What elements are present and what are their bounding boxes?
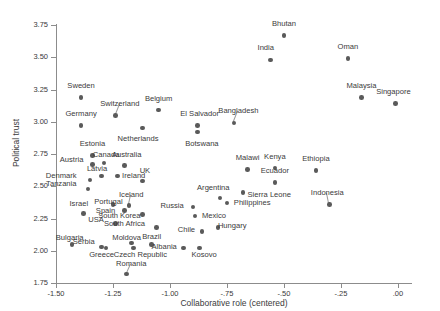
x-tick-label: -.50 — [262, 289, 306, 298]
y-axis-title: Political trust — [11, 83, 21, 203]
data-point-label: Greece — [89, 251, 114, 259]
data-point-label: Bhutan — [272, 20, 296, 28]
data-point[interactable] — [191, 205, 196, 210]
data-point[interactable] — [282, 33, 287, 38]
data-point-label: Portugal — [94, 198, 122, 206]
data-point-label: India — [258, 44, 274, 52]
data-point[interactable] — [195, 130, 200, 135]
data-point[interactable] — [156, 108, 161, 113]
data-point-label: Israel — [70, 200, 89, 208]
data-point[interactable] — [218, 196, 223, 201]
x-tick-label: -.75 — [205, 289, 249, 298]
data-point-label: Romania — [116, 260, 146, 268]
data-point[interactable] — [268, 58, 273, 63]
data-point[interactable] — [140, 212, 145, 217]
data-point[interactable] — [346, 56, 351, 61]
x-tick-label: -1.25 — [91, 289, 135, 298]
data-point[interactable] — [140, 179, 145, 184]
x-tick-mark — [284, 283, 285, 288]
data-point-label: El Salvador — [180, 110, 219, 118]
y-tick-label: 2.00 — [14, 247, 48, 255]
x-tick-mark — [398, 283, 399, 288]
data-point-label: Chile — [178, 226, 195, 234]
data-point-label: Germany — [65, 110, 96, 118]
data-point[interactable] — [81, 211, 86, 216]
data-point[interactable] — [327, 202, 332, 207]
data-point[interactable] — [127, 203, 132, 208]
data-point-label: Singapore — [376, 88, 411, 96]
x-axis-line — [56, 283, 412, 284]
data-point[interactable] — [79, 95, 84, 100]
data-point-label: Argentina — [197, 184, 230, 192]
x-tick-label: .00 — [376, 289, 420, 298]
data-point[interactable] — [359, 95, 364, 100]
data-point[interactable] — [393, 101, 398, 106]
data-point[interactable] — [232, 121, 237, 126]
data-point-label: Ethiopia — [302, 155, 329, 163]
data-point-label: Mexico — [202, 212, 226, 220]
data-point-label: Sweden — [67, 82, 94, 90]
data-point[interactable] — [225, 201, 230, 206]
data-point-label: USA — [88, 216, 104, 224]
data-point-label: Kenya — [264, 153, 286, 161]
data-point-label: Indonesia — [311, 189, 344, 197]
data-point-label: Netherlands — [118, 135, 159, 143]
data-point-label: Iceland — [119, 191, 144, 199]
data-point[interactable] — [314, 168, 319, 173]
data-point[interactable] — [122, 163, 127, 168]
data-point-label: Czech Republic — [114, 251, 167, 259]
data-point-label: Moldova — [112, 234, 141, 242]
data-point[interactable] — [113, 113, 118, 118]
data-point-label: Serbia — [73, 238, 95, 246]
y-tick-mark — [51, 90, 56, 91]
data-point-label: Belgium — [145, 95, 172, 103]
data-point-label: UK — [140, 167, 151, 175]
y-axis-line — [56, 24, 57, 284]
data-point[interactable] — [273, 180, 278, 185]
data-point[interactable] — [154, 225, 159, 230]
data-point[interactable] — [140, 126, 145, 131]
data-point[interactable] — [200, 229, 205, 234]
data-point[interactable] — [193, 214, 198, 219]
data-point-label: Bangladesh — [218, 107, 258, 115]
x-tick-mark — [113, 283, 114, 288]
data-point-label: Switzerland — [100, 100, 139, 108]
data-point[interactable] — [99, 174, 104, 179]
data-point[interactable] — [88, 178, 93, 183]
y-tick-mark — [51, 25, 56, 26]
data-point-label: Hungary — [218, 222, 247, 230]
data-point[interactable] — [124, 272, 129, 277]
data-point[interactable] — [245, 167, 250, 172]
data-point[interactable] — [195, 123, 200, 128]
data-point-label: Ecuador — [261, 167, 289, 175]
y-tick-label: 2.25 — [14, 215, 48, 223]
x-tick-mark — [227, 283, 228, 288]
x-tick-mark — [170, 283, 171, 288]
x-tick-label: -.25 — [319, 289, 363, 298]
data-point-label: Malaysia — [347, 82, 377, 90]
y-tick-mark — [51, 251, 56, 252]
y-tick-label: 3.75 — [14, 21, 48, 29]
y-tick-label: 1.75 — [14, 279, 48, 287]
data-point-label: Oman — [337, 43, 358, 51]
data-point-label: Malawi — [236, 154, 260, 162]
data-point[interactable] — [241, 190, 246, 195]
data-point[interactable] — [181, 246, 186, 251]
data-point-label: Tanzania — [46, 180, 76, 188]
scatter-plot: 1.752.002.252.502.753.003.253.503.75 -1.… — [0, 0, 440, 311]
data-point[interactable] — [86, 187, 91, 192]
y-tick-mark — [51, 57, 56, 58]
data-point[interactable] — [79, 123, 84, 128]
x-axis-title: Collaborative role (centered) — [56, 298, 412, 308]
data-point-label: Australia — [112, 151, 142, 159]
data-point-label: Estonia — [80, 140, 105, 148]
y-tick-mark — [51, 219, 56, 220]
y-tick-mark — [51, 122, 56, 123]
y-tick-label: 3.50 — [14, 53, 48, 61]
data-point-label: Russia — [160, 202, 183, 210]
data-point-label: Austria — [60, 156, 84, 164]
x-tick-label: -1.00 — [148, 289, 192, 298]
data-point-label: Kosovo — [192, 251, 217, 259]
data-point-label: Philippines — [234, 199, 271, 207]
data-point[interactable] — [115, 174, 120, 179]
